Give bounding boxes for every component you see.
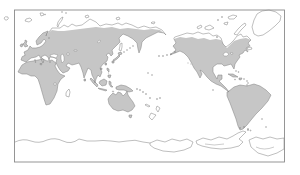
continent-south-america	[227, 84, 271, 130]
aral-sea	[67, 53, 69, 55]
coastline-antarctica-west	[15, 139, 150, 143]
new-caledonia	[145, 104, 150, 107]
island-tasmania	[129, 115, 132, 118]
severnaya-zemlya	[85, 15, 89, 18]
sakhalin	[119, 43, 122, 51]
island-honshu	[113, 55, 120, 61]
island-sri-lanka	[84, 79, 86, 81]
map-edge-island-fragment	[4, 17, 8, 21]
newfoundland	[247, 47, 252, 50]
banks-island	[197, 25, 202, 29]
island-kyushu	[112, 61, 114, 63]
shaded-specks	[108, 62, 194, 73]
continent-australia	[108, 91, 135, 112]
world-map-svg	[0, 0, 300, 175]
greenland	[252, 10, 281, 36]
continent-north-america-fill	[170, 37, 251, 92]
island-borneo	[99, 79, 107, 86]
hawaii-islands	[187, 62, 188, 63]
antarctica-segment-3	[249, 137, 284, 156]
baffin-island	[234, 23, 246, 35]
devon-island	[224, 22, 228, 25]
antarctica-segment-2-peninsula	[196, 131, 246, 149]
victoria-island	[205, 25, 214, 30]
iceland	[25, 18, 32, 22]
wrangel-island	[151, 22, 155, 24]
lake-balkhash	[74, 50, 77, 51]
madagascar	[66, 89, 70, 97]
island-java	[98, 88, 107, 91]
antarctica-segment-1	[150, 139, 193, 152]
lake-victoria	[54, 83, 56, 85]
novaya-zemlya	[57, 17, 63, 27]
island-sulawesi	[109, 81, 113, 87]
new-zealand-north	[156, 106, 160, 112]
island-hispaniola	[239, 78, 242, 80]
island-luzon	[107, 68, 109, 72]
island-sicily	[40, 64, 42, 66]
island-new-guinea	[116, 85, 133, 92]
island-hokkaido	[118, 52, 122, 55]
world-map	[0, 0, 300, 175]
island-cuba	[228, 74, 238, 77]
svalbard	[40, 13, 44, 16]
ellesmere-island	[228, 15, 237, 19]
island-ireland	[20, 44, 23, 47]
island-mindanao	[108, 75, 111, 78]
new-zealand-south	[149, 113, 156, 120]
island-great-britain	[23, 40, 28, 47]
island-taiwan	[105, 63, 107, 65]
new-siberian-islands	[116, 17, 120, 20]
